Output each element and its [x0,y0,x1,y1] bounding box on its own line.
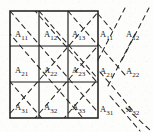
outside-label-1-2: A12 [126,24,140,42]
cell-label-3-2: A32 [44,97,58,115]
cell-label-1-3: A13 [72,24,86,42]
outside-label-1-1: A11 [100,24,113,42]
outside-label-3-2: A32 [126,99,140,117]
cell-label-1-2: A12 [44,24,58,42]
outside-label-2-1: A21 [100,61,114,79]
cell-label-1-1: A11 [15,24,28,42]
cell-label-3-3: A33 [72,97,86,115]
cell-label-2-2: A22 [44,60,58,78]
cell-label-3-1: A31 [15,97,29,115]
cell-label-2-1: A21 [15,60,29,78]
outside-label-2-2: A22 [126,61,140,79]
outside-label-3-1: A31 [100,99,114,117]
cell-label-2-3: A23 [72,60,86,78]
